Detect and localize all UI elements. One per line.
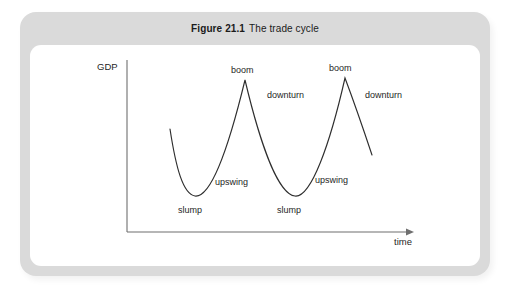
x-axis-label: time xyxy=(394,237,412,247)
label-boom-1: boom xyxy=(231,66,254,75)
label-boom-2: boom xyxy=(329,64,352,73)
label-slump-2: slump xyxy=(277,206,301,215)
label-upswing-2: upswing xyxy=(315,176,348,185)
figure-root: Figure 21.1 The trade cycle GDP time slu… xyxy=(0,0,511,297)
figure-caption-number: Figure 21.1 xyxy=(191,23,245,34)
label-upswing-1: upswing xyxy=(215,178,248,187)
label-downturn-1: downturn xyxy=(267,91,304,100)
figure-caption: Figure 21.1 The trade cycle xyxy=(20,12,490,45)
y-axis-label: GDP xyxy=(97,62,118,72)
label-downturn-2: downturn xyxy=(365,91,402,100)
figure-caption-text: The trade cycle xyxy=(249,23,319,34)
plot-panel xyxy=(30,45,480,266)
label-slump-1: slump xyxy=(178,206,202,215)
